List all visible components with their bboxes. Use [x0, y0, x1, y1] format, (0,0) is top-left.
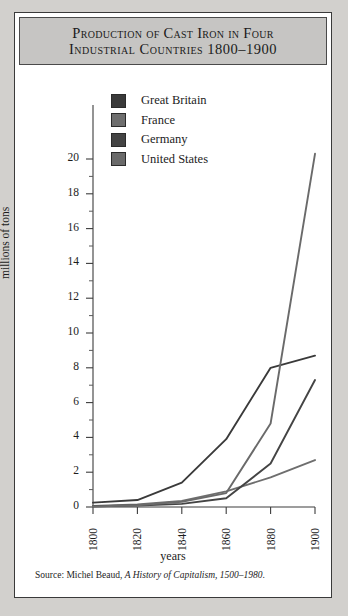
figure-panel: Production of Cast Iron in Four Industri…	[14, 12, 332, 598]
x-axis-ticks	[93, 507, 315, 514]
y-axis-tick-label: 20	[57, 151, 79, 163]
series-line-germany	[93, 380, 315, 506]
chart-title-line-1: Production of Cast Iron in Four	[72, 25, 273, 41]
x-axis-tick-label: 1800	[87, 528, 99, 551]
x-axis-tick-label: 1860	[220, 528, 232, 551]
y-axis-tick-label: 10	[57, 325, 79, 337]
y-axis-tick-label: 12	[57, 290, 79, 302]
source-suffix: .	[263, 570, 265, 580]
chart-title-line-2: Industrial Countries 1800–1900	[69, 41, 277, 57]
y-axis-tick-label: 0	[57, 499, 79, 511]
y-axis-title: millions of tons	[0, 207, 11, 279]
y-axis-tick-label: 4	[57, 429, 79, 441]
source-title: A History of Capitalism, 1500–1980	[125, 570, 263, 580]
plot-area: Great Britain France Germany United Stat…	[15, 67, 331, 597]
y-axis-tick-label: 14	[57, 255, 79, 267]
source-note: Source: Michel Beaud, A History of Capit…	[35, 570, 265, 580]
series-line-france	[93, 460, 315, 506]
data-series-group	[93, 154, 315, 507]
x-axis-tick-label: 1880	[265, 528, 277, 551]
y-axis-tick-label: 16	[57, 221, 79, 233]
series-line-united-states	[93, 154, 315, 507]
axis-frame	[93, 105, 315, 507]
x-axis-tick-label: 1900	[309, 528, 321, 551]
chart-title-bar: Production of Cast Iron in Four Industri…	[19, 17, 327, 65]
source-prefix: Source: Michel Beaud,	[35, 570, 125, 580]
y-axis-tick-label: 8	[57, 360, 79, 372]
series-line-great-britain	[93, 356, 315, 503]
y-axis-tick-label: 2	[57, 464, 79, 476]
y-axis-tick-label: 6	[57, 395, 79, 407]
x-axis-tick-label: 1820	[131, 528, 143, 551]
y-axis-tick-label: 18	[57, 186, 79, 198]
x-axis-tick-label: 1840	[176, 528, 188, 551]
x-axis-title: years	[15, 549, 331, 564]
y-axis-ticks	[86, 159, 93, 507]
